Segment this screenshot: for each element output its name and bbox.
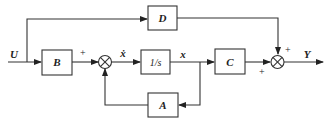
block-a-label: A	[158, 99, 166, 111]
block-b-label: B	[52, 56, 60, 68]
block-integrator: 1/s	[141, 50, 170, 74]
input-label: U	[10, 48, 19, 60]
block-c-label: C	[226, 56, 234, 68]
block-diagram: U D B + ẋ 1/s x C + +	[0, 0, 331, 130]
summing-junction-1	[99, 56, 112, 69]
sum2-plus-sign-left: +	[259, 66, 265, 77]
block-a: A	[148, 93, 178, 117]
input-signal: U	[8, 48, 41, 62]
block-c: C	[215, 49, 245, 74]
state-label: x	[179, 48, 186, 60]
state-derivative-label: ẋ	[119, 47, 126, 59]
output-label: Y	[304, 48, 312, 60]
sum1-plus-sign: +	[80, 47, 86, 58]
summing-junction-2	[271, 56, 284, 69]
sum2-plus-sign-top: +	[285, 44, 291, 55]
integrator-label: 1/s	[150, 57, 162, 68]
block-d-label: D	[158, 12, 167, 24]
block-d: D	[148, 6, 177, 30]
block-b: B	[42, 50, 72, 75]
